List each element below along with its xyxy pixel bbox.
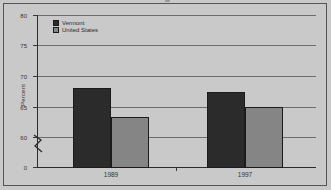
gridline-70 <box>37 76 316 77</box>
legend-swatch-vermont-icon <box>53 20 59 26</box>
legend-label-vermont: Vermont <box>62 20 84 26</box>
y-tick-label-65: 65 <box>20 105 27 111</box>
y-tick-label-0: 0 <box>24 165 27 171</box>
legend-swatch-united-states-icon <box>53 27 59 33</box>
y-tick-label-70: 70 <box>20 74 27 80</box>
gridline-75 <box>37 45 316 46</box>
y-tick-label-75: 75 <box>20 43 27 49</box>
x-tick-label-1997: 1997 <box>238 171 252 178</box>
legend-label-united-states: United States <box>62 27 98 33</box>
bar-united-states-1997 <box>245 107 283 168</box>
gridline-80 <box>37 15 316 16</box>
bar-vermont-1997 <box>207 92 245 168</box>
chart-legend: Vermont United States <box>50 18 102 35</box>
y-tick-label-60: 60 <box>20 135 27 141</box>
bar-united-states-1989 <box>111 117 149 168</box>
chart-screenshot: Percent 80 75 70 65 60 <box>0 0 331 190</box>
y-tick-label-80: 80 <box>20 13 27 19</box>
legend-item-united-states: United States <box>53 27 98 33</box>
bar-vermont-1989 <box>73 88 111 168</box>
y-axis-title: Percent <box>20 83 26 105</box>
legend-item-vermont: Vermont <box>53 20 98 26</box>
plot-area: 80 75 70 65 60 0 <box>37 15 316 168</box>
y-axis-line <box>37 15 38 168</box>
scan-artifact <box>165 0 170 2</box>
x-tick-mark-center <box>176 168 177 171</box>
axis-break-icon <box>32 133 44 155</box>
x-tick-label-1989: 1989 <box>104 171 118 178</box>
chart-outer-frame: Percent 80 75 70 65 60 <box>3 3 327 186</box>
